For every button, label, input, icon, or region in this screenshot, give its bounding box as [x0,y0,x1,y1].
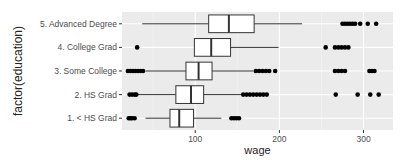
y-tick-label: 4. College Grad [57,42,117,52]
outlier-point [323,45,328,50]
outlier-point [355,92,360,97]
x-axis: 100200300 [188,130,371,144]
y-tick-label: 1. < HS Grad [67,113,117,123]
y-tick-label: 2. HS Grad [74,90,117,100]
outlier-point [372,69,377,74]
outlier-point [374,22,379,27]
y-axis-title: factor(education) [11,26,25,116]
outlier-point [267,69,272,74]
outlier-point [132,116,137,121]
outlier-point [134,92,139,97]
outlier-point [368,92,373,97]
outlier-point [135,45,140,50]
outlier-point [358,22,363,27]
x-tick-label: 200 [272,134,286,144]
outlier-point [343,69,348,74]
x-tick-label: 100 [188,134,202,144]
outlier-point [333,92,338,97]
outlier-point [273,69,278,74]
y-axis: 1. < HS Grad2. HS Grad3. Some College4. … [40,19,122,123]
outlier-point [346,45,351,50]
y-tick-label: 5. Advanced Degree [40,19,117,29]
outlier-point [264,92,269,97]
outlier-point [365,22,370,27]
outlier-point [237,116,242,121]
outlier-point [376,92,381,97]
boxplot-chart: 1. < HS Grad2. HS Grad3. Some College4. … [0,0,406,167]
x-tick-label: 300 [356,134,370,144]
outlier-point [141,69,146,74]
y-tick-label: 3. Some College [54,66,117,76]
x-axis-title: wage [243,144,270,156]
outlier-point [353,22,358,27]
